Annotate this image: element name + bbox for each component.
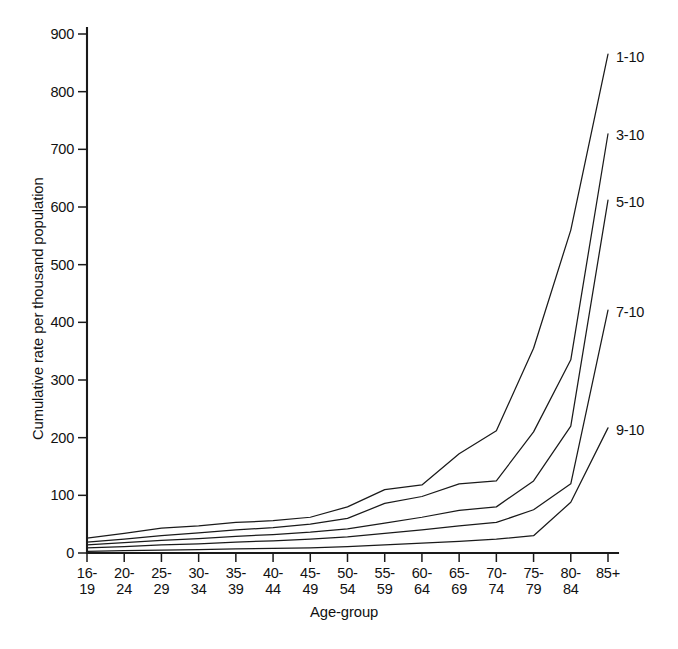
y-tick-label: 700 xyxy=(24,142,74,157)
y-tick-label: 200 xyxy=(24,431,74,446)
series-label-7-10: 7-10 xyxy=(616,305,644,320)
y-tick-label: 0 xyxy=(24,546,74,561)
tick-marks-group xyxy=(78,34,608,562)
y-tick-label: 400 xyxy=(24,315,74,330)
series-label-3-10: 3-10 xyxy=(616,128,644,143)
x-tick-label: 85+ xyxy=(584,566,632,582)
figure-container: Cumulative rate per thousand population … xyxy=(0,0,678,649)
y-axis-title: Cumulative rate per thousand population xyxy=(30,177,46,440)
y-tick-label: 300 xyxy=(24,373,74,388)
y-tick-label: 900 xyxy=(24,27,74,42)
series-line-5-10 xyxy=(87,200,608,545)
y-tick-label: 600 xyxy=(24,200,74,215)
x-axis-title: Age-group xyxy=(310,604,378,620)
y-tick-label: 100 xyxy=(24,488,74,503)
y-tick-label: 800 xyxy=(24,85,74,100)
series-line-7-10 xyxy=(87,310,608,548)
series-label-1-10: 1-10 xyxy=(616,50,644,65)
series-label-5-10: 5-10 xyxy=(616,195,644,210)
series-line-1-10 xyxy=(87,54,608,538)
series-label-9-10: 9-10 xyxy=(616,423,644,438)
chart-plot-area xyxy=(0,0,678,649)
series-line-3-10 xyxy=(87,134,608,542)
series-lines-group xyxy=(87,54,608,551)
y-tick-label: 500 xyxy=(24,258,74,273)
series-line-9-10 xyxy=(87,428,608,551)
